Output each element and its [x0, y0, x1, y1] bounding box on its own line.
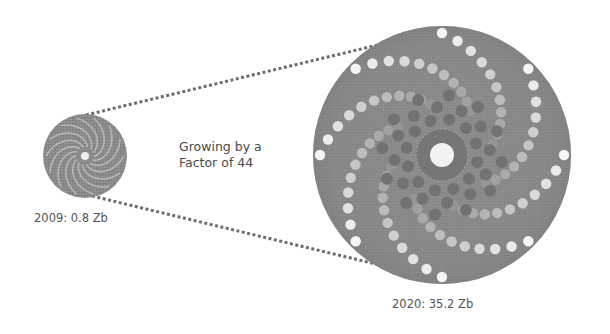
swirl-dot — [346, 173, 356, 183]
inner-dot — [480, 169, 492, 181]
inner-dot — [447, 183, 459, 195]
inner-dot — [376, 142, 388, 154]
inner-dot — [400, 197, 412, 209]
large-disc-label: 2020: 35.2 Zb — [392, 296, 473, 312]
swirl-dot — [531, 97, 541, 107]
swirl-dot — [506, 241, 516, 251]
inner-dot — [441, 197, 453, 209]
swirl-dot — [551, 165, 561, 175]
swirl-dot — [397, 243, 407, 253]
swirl-dot — [323, 134, 333, 144]
swirl-dot — [379, 205, 389, 215]
swirl-dot — [466, 46, 476, 56]
swirl-dot — [394, 91, 404, 101]
swirl-dot — [509, 161, 519, 171]
inner-dot — [401, 142, 413, 154]
swirl-dot — [505, 204, 515, 214]
swirl-dot — [492, 208, 502, 218]
inner-dot — [388, 113, 400, 125]
small-disc-center — [81, 152, 89, 160]
swirl-dot — [439, 70, 449, 80]
inner-dot — [475, 121, 487, 133]
swirl-dot — [344, 110, 354, 120]
growth-diagram — [0, 0, 610, 334]
swirl-dot — [367, 58, 377, 68]
swirl-dot — [374, 131, 384, 141]
inner-dot — [460, 204, 472, 216]
inner-dot — [471, 156, 483, 168]
swirl-dot — [490, 174, 500, 184]
swirl-dot — [490, 244, 500, 254]
annotation-line-1: Growing by a — [179, 139, 262, 155]
small-disc-2009 — [43, 114, 127, 198]
swirl-dot — [500, 169, 510, 179]
swirl-dot — [477, 57, 487, 67]
swirl-dot — [495, 95, 505, 105]
swirl-dot — [485, 69, 495, 79]
inner-dot — [484, 144, 496, 156]
swirl-dot — [414, 59, 424, 69]
inner-dot — [397, 177, 409, 189]
swirl-dot — [523, 140, 533, 150]
swirl-dot — [369, 95, 379, 105]
inner-dot — [381, 173, 393, 185]
swirl-dot — [351, 236, 361, 246]
swirl-dot — [333, 121, 343, 131]
small-disc-label: 2009: 0.8 Zb — [34, 210, 108, 226]
swirl-dot — [384, 56, 394, 66]
inner-dot — [429, 184, 441, 196]
growth-annotation: Growing by a Factor of 44 — [179, 139, 262, 171]
swirl-dot — [378, 193, 388, 203]
swirl-dot — [523, 63, 533, 73]
swirl-dot — [315, 150, 325, 160]
inner-dot — [443, 89, 455, 101]
inner-dot — [409, 125, 421, 137]
swirl-dot — [408, 254, 418, 264]
swirl-dot — [474, 244, 484, 254]
swirl-dot — [496, 107, 506, 117]
inner-dot — [425, 115, 437, 127]
inner-dot — [463, 173, 475, 185]
swirl-dot — [343, 187, 353, 197]
swirl-dot — [382, 92, 392, 102]
swirl-dot — [351, 63, 361, 73]
swirl-dot — [382, 218, 392, 228]
swirl-dot — [528, 80, 538, 90]
swirl-dot — [460, 241, 470, 251]
swirl-dot — [528, 127, 538, 137]
swirl-dot — [343, 203, 353, 213]
swirl-dot — [412, 203, 422, 213]
swirl-dot — [531, 112, 541, 122]
swirl-dot — [523, 236, 533, 246]
large-disc-2020 — [313, 26, 571, 284]
swirl-dot — [448, 78, 458, 88]
inner-dot — [472, 101, 484, 113]
swirl-dot — [530, 190, 540, 200]
swirl-dot — [480, 209, 490, 219]
inner-dot — [460, 122, 472, 134]
inner-dot — [464, 188, 476, 200]
swirl-dot — [365, 138, 375, 148]
inner-dot — [392, 129, 404, 141]
swirl-dot — [383, 125, 393, 135]
swirl-dot — [427, 63, 437, 73]
inner-dot — [388, 154, 400, 166]
swirl-dot — [461, 96, 471, 106]
swirl-dot — [389, 230, 399, 240]
inner-dot — [431, 101, 443, 113]
swirl-dot — [425, 222, 435, 232]
swirl-dot — [350, 159, 360, 169]
swirl-dot — [541, 179, 551, 189]
swirl-dot — [452, 36, 462, 46]
swirl-dot — [356, 102, 366, 112]
large-disc-center — [430, 143, 454, 167]
annotation-line-2: Factor of 44 — [179, 155, 262, 171]
inner-dot — [408, 110, 420, 122]
swirl-dot — [435, 230, 445, 240]
inner-dot — [496, 156, 508, 168]
swirl-dot — [421, 264, 431, 274]
inner-dot — [443, 114, 455, 126]
inner-dot — [484, 185, 496, 197]
inner-dot — [456, 105, 468, 117]
swirl-dot — [446, 236, 456, 246]
